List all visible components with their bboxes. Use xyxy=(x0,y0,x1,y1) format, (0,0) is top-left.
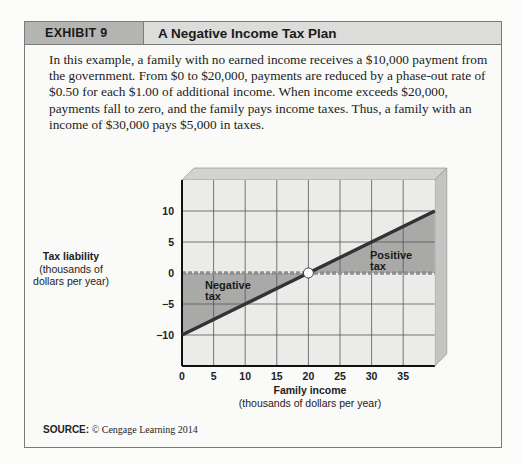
y-tick-label: −5 xyxy=(162,298,174,310)
x-tick-label: 5 xyxy=(211,370,217,382)
chart-box-side xyxy=(435,168,447,366)
x-axis-subtitle: (thousands of dollars per year) xyxy=(239,397,381,409)
y-tick-label: 5 xyxy=(168,236,174,248)
break-even-point xyxy=(303,268,313,278)
x-axis-label: Family income (thousands of dollars per … xyxy=(200,384,420,409)
y-axis-label: Tax liability (thousands of dollars per … xyxy=(28,250,114,288)
x-tick-label: 0 xyxy=(179,370,185,382)
y-axis-title: Tax liability xyxy=(28,250,114,263)
y-axis-subtitle: (thousands of dollars per year) xyxy=(33,263,109,288)
positive-tax-label: tax xyxy=(370,260,387,272)
x-tick-label: 30 xyxy=(366,370,378,382)
x-tick-label: 20 xyxy=(303,370,315,382)
x-tick-label: 10 xyxy=(239,370,251,382)
x-tick-label: 15 xyxy=(271,370,283,382)
negative-tax-label: tax xyxy=(205,290,222,302)
y-tick-label: 0 xyxy=(168,267,174,279)
x-tick-label: 35 xyxy=(397,370,409,382)
y-tick-label: −10 xyxy=(156,329,174,341)
x-axis-title: Family income xyxy=(200,384,420,397)
y-tick-label: 10 xyxy=(162,205,174,217)
chart-box-top xyxy=(182,168,447,180)
x-tick-label: 25 xyxy=(334,370,346,382)
